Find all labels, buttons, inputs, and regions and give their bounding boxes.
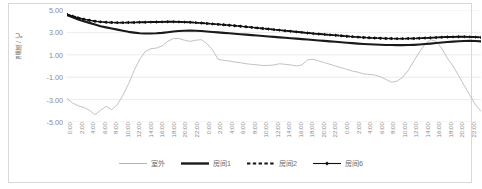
series-marker (216, 23, 219, 26)
series-1 (67, 39, 481, 115)
x-tick-label: 22:00 (471, 122, 477, 137)
series-marker (468, 35, 471, 38)
legend-label: 房间1 (213, 158, 231, 168)
x-tick-label: 16:00 (436, 122, 442, 137)
series-marker (362, 36, 365, 39)
series-marker (323, 33, 326, 36)
series-3 (67, 14, 481, 38)
series-marker (160, 20, 163, 23)
series-line (67, 14, 481, 38)
series-marker (423, 36, 426, 39)
x-tick-label: 8:00 (113, 122, 119, 134)
series-marker (261, 27, 264, 30)
series-marker (479, 36, 481, 39)
series-marker (116, 21, 119, 24)
x-tick-label: 0:00 (344, 122, 350, 134)
series-marker (278, 28, 281, 31)
x-tick-label: 6:00 (240, 122, 246, 134)
series-marker (144, 21, 147, 24)
x-tick-label: 10:00 (402, 122, 408, 137)
series-marker (211, 22, 214, 25)
series-marker (110, 21, 113, 24)
x-tick-label: 12:00 (136, 122, 142, 137)
x-tick-label: 14:00 (286, 122, 292, 137)
y-tick-label: -5.00 (47, 118, 63, 127)
legend-item-1[interactable]: 室外 (119, 158, 165, 168)
series-marker (429, 36, 432, 39)
x-tick-label: 20:00 (182, 122, 188, 137)
series-marker (188, 21, 191, 24)
chart-svg (67, 10, 481, 122)
x-tick-label: 8:00 (390, 122, 396, 134)
x-tick-label: 20:00 (321, 122, 327, 137)
x-tick-label: 2:00 (217, 122, 223, 134)
series-marker (127, 21, 130, 24)
x-tick-label: 14:00 (148, 122, 154, 137)
x-tick-label: 0:00 (67, 122, 73, 134)
y-tick-label: 3.00 (49, 28, 63, 37)
series-marker (356, 35, 359, 38)
series-marker (345, 35, 348, 38)
series-marker (283, 29, 286, 32)
series-marker (183, 20, 186, 23)
x-tick-label: 18:00 (309, 122, 315, 137)
legend-item-3[interactable]: 房间2 (247, 158, 297, 168)
x-tick-label: 0:00 (206, 122, 212, 134)
figure-caption (0, 174, 482, 183)
legend-label: 房间6 (345, 158, 363, 168)
series-marker (166, 20, 169, 23)
x-tick-label: 4:00 (229, 122, 235, 134)
series-marker (256, 26, 259, 29)
y-tick-label: -3.00 (47, 95, 63, 104)
series-marker (446, 35, 449, 38)
series-marker (435, 36, 438, 39)
y-axis-ticks: 5.003.001.00-1.00-3.00-5.00 (31, 10, 65, 122)
series-marker (172, 20, 175, 23)
series-marker (239, 25, 242, 28)
series-marker (155, 20, 158, 23)
series-marker (351, 35, 354, 38)
legend-item-2[interactable]: 房间1 (181, 158, 231, 168)
series-marker (367, 36, 370, 39)
x-tick-label: 2:00 (79, 122, 85, 134)
x-tick-label: 4:00 (367, 122, 373, 134)
x-tick-label: 12:00 (275, 122, 281, 137)
series-marker (177, 20, 180, 23)
x-tick-label: 22:00 (332, 122, 338, 137)
x-tick-label: 12:00 (413, 122, 419, 137)
series-marker (194, 21, 197, 24)
series-line (67, 14, 481, 38)
series-marker (334, 34, 337, 37)
series-marker (267, 27, 270, 30)
series-marker (474, 35, 477, 38)
x-tick-label: 10:00 (263, 122, 269, 137)
series-marker (379, 37, 382, 40)
series-marker (440, 36, 443, 39)
series-marker (121, 21, 124, 24)
series-marker (250, 26, 253, 29)
y-tick-label: 1.00 (49, 50, 63, 59)
series-marker (457, 35, 460, 38)
legend-label: 室外 (151, 158, 165, 168)
x-tick-label: 6:00 (102, 122, 108, 134)
x-tick-label: 2:00 (356, 122, 362, 134)
x-axis-ticks: 0:002:004:006:008:0010:0012:0014:0016:00… (67, 122, 481, 158)
series-marker (390, 37, 393, 40)
y-axis-title: 温度 / ℃ (15, 10, 29, 80)
x-tick-label: 6:00 (379, 122, 385, 134)
series-marker (244, 25, 247, 28)
series-marker (104, 21, 107, 24)
series-marker (384, 37, 387, 40)
y-tick-label: -1.00 (47, 73, 63, 82)
plot-area (67, 10, 481, 122)
series-marker (222, 23, 225, 26)
series-marker (328, 33, 331, 36)
series-marker (132, 21, 135, 24)
legend-item-4[interactable]: 房间6 (313, 158, 363, 168)
chart-legend: 室外房间1房间2房间6 (0, 155, 482, 171)
legend-swatch-icon (313, 159, 341, 168)
series-marker (300, 31, 303, 34)
series-marker (99, 20, 102, 23)
series-marker (463, 35, 466, 38)
series-marker (373, 36, 376, 39)
